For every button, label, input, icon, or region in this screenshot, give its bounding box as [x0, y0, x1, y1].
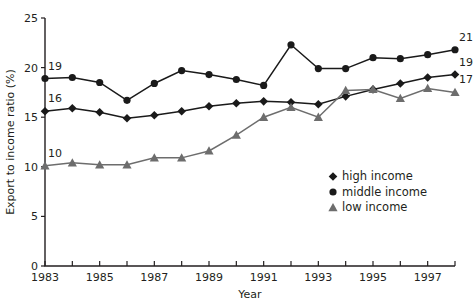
data-point-circle [260, 82, 267, 89]
data-point-circle [151, 80, 158, 87]
y-tick-label: 5 [31, 210, 38, 223]
x-tick-label: 1993 [304, 271, 332, 284]
x-tick-label: 1995 [359, 271, 387, 284]
data-point-triangle [204, 146, 213, 154]
y-tick-label: 10 [24, 161, 38, 174]
data-point-triangle [232, 130, 241, 138]
x-tick-label: 1991 [250, 271, 278, 284]
data-point-circle [369, 54, 376, 61]
data-point-triangle [328, 203, 337, 211]
data-point-diamond [150, 111, 159, 120]
y-axis-ticks: 0510152025 [24, 12, 45, 273]
y-axis-title: Export to income ratio (%) [4, 69, 17, 215]
y-tick-label: 20 [24, 62, 38, 75]
data-point-diamond [177, 107, 186, 116]
x-tick-label: 1983 [31, 271, 59, 284]
data-point-circle [342, 65, 349, 72]
y-tick-label: 15 [24, 111, 38, 124]
x-axis-ticks: 19831985198719891991199319951997 [31, 261, 455, 284]
line-chart: 0510152025 19831985198719891991199319951… [0, 0, 475, 308]
data-point-label: 16 [48, 92, 62, 105]
data-point-triangle [423, 84, 432, 92]
data-point-diamond [95, 108, 104, 117]
data-point-label: 17 [459, 73, 473, 86]
data-point-circle [424, 51, 431, 58]
data-point-label: 19 [48, 60, 62, 73]
data-point-circle [397, 55, 404, 62]
data-point-triangle [286, 103, 295, 111]
x-tick-label: 1997 [414, 271, 442, 284]
series-line [45, 88, 455, 165]
x-axis-title: Year [237, 288, 262, 301]
data-point-circle [451, 46, 458, 53]
data-point-circle [329, 188, 336, 195]
chart-axes [45, 18, 455, 266]
legend-label-high-income: high income [342, 169, 413, 183]
series-line [45, 45, 455, 101]
chart-container: 0510152025 19831985198719891991199319951… [0, 0, 475, 308]
series-middle-income [41, 41, 458, 104]
x-tick-label: 1985 [86, 271, 114, 284]
data-point-circle [287, 41, 294, 48]
data-point-diamond [41, 107, 50, 116]
series-low-income [40, 84, 459, 170]
data-point-circle [69, 74, 76, 81]
legend-label-low-income: low income [342, 200, 407, 214]
data-point-diamond [329, 172, 338, 181]
data-point-diamond [123, 114, 132, 123]
data-point-circle [41, 75, 48, 82]
data-point-diamond [205, 102, 214, 111]
data-point-diamond [259, 97, 268, 106]
data-point-label: 10 [48, 147, 62, 160]
y-tick-label: 25 [24, 12, 38, 25]
legend-label-middle-income: middle income [342, 185, 427, 199]
data-point-diamond [232, 99, 241, 108]
data-point-diamond [423, 73, 432, 82]
data-point-diamond [396, 79, 405, 88]
chart-legend: high incomemiddle incomelow income [328, 169, 427, 214]
data-point-circle [233, 76, 240, 83]
data-point-circle [178, 67, 185, 74]
data-point-circle [123, 97, 130, 104]
x-tick-label: 1987 [140, 271, 168, 284]
data-point-circle [96, 79, 103, 86]
x-tick-label: 1989 [195, 271, 223, 284]
data-point-diamond [451, 70, 460, 79]
data-point-label: 21 [459, 31, 473, 44]
data-point-label: 19 [459, 56, 473, 69]
data-point-diamond [314, 100, 323, 109]
data-point-diamond [68, 104, 77, 113]
chart-series-group [40, 41, 459, 169]
axis-frame [45, 18, 455, 266]
data-point-circle [315, 65, 322, 72]
data-point-circle [205, 71, 212, 78]
